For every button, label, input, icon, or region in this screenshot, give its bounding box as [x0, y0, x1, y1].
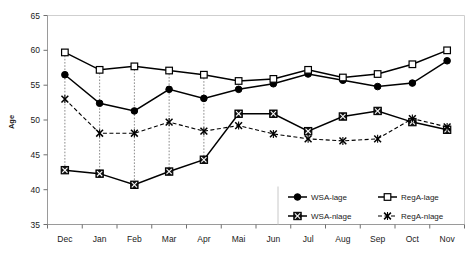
x-tick-label: Feb — [127, 234, 142, 244]
y-tick-label: 35 — [31, 220, 41, 230]
x-tick-label: Aug — [335, 234, 350, 244]
x-tick-label: Dec — [57, 234, 73, 244]
legend-label: WSA-nlage — [311, 212, 352, 221]
x-tick-label: Jan — [93, 234, 107, 244]
x-tick-label: Mai — [232, 234, 246, 244]
y-tick-label: 50 — [31, 115, 41, 125]
legend-label: RegA-lage — [401, 193, 439, 202]
legend-label: WSA-lage — [311, 193, 348, 202]
legend-label: RegA-nlage — [401, 212, 444, 221]
y-tick-label: 40 — [31, 185, 41, 195]
y-tick-label: 55 — [31, 80, 41, 90]
x-tick-label: Jul — [303, 234, 314, 244]
x-tick-label: Nov — [440, 234, 456, 244]
line-chart: 65 60 55 50 45 40 35 Age DecJanFebMarApr… — [0, 0, 473, 264]
x-tick-label: Oct — [406, 234, 420, 244]
x-tick-label: Sep — [370, 234, 385, 244]
legend-item-wsa-lage[interactable]: WSA-lage — [288, 193, 348, 202]
x-tick-label: Apr — [197, 234, 210, 244]
y-axis-title: Age — [7, 115, 16, 129]
x-tick-label: Mar — [162, 234, 177, 244]
y-tick-label: 60 — [31, 45, 41, 55]
legend-item-wsa-nlage[interactable]: WSA-nlage — [288, 212, 352, 221]
y-tick-label: 65 — [31, 11, 41, 21]
legend-item-rega-lage[interactable]: RegA-lage — [378, 193, 439, 202]
legend-item-rega-nlage[interactable]: RegA-nlage — [378, 212, 444, 221]
x-tick-label: Jun — [267, 234, 281, 244]
y-tick-label: 45 — [31, 150, 41, 160]
chart-container: 65 60 55 50 45 40 35 Age DecJanFebMarApr… — [0, 0, 473, 264]
